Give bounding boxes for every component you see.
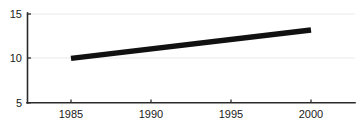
- line-chart-plot: 15 10 5 1985 1990 1995 2000: [0, 0, 361, 127]
- chart-figure: 15 10 5 1985 1990 1995 2000: [0, 0, 361, 127]
- x-axis-label-1985: 1985: [59, 108, 83, 120]
- y-axis-label-10: 10: [10, 52, 22, 64]
- x-axis-label-2000: 2000: [299, 108, 323, 120]
- y-axis-label-5: 5: [16, 97, 22, 109]
- x-axis-label-1995: 1995: [219, 108, 243, 120]
- x-axis-label-1990: 1990: [139, 108, 163, 120]
- y-axis-label-15: 15: [10, 8, 22, 20]
